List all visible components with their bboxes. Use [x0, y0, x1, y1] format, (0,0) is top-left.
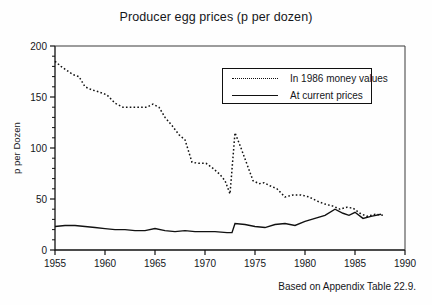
chart-figure: Producer egg prices (p per dozen) 050100…	[0, 0, 432, 305]
source-note: Based on Appendix Table 22.9.	[278, 281, 416, 292]
x-tick-label: 1985	[344, 258, 367, 269]
x-tick-label: 1980	[294, 258, 317, 269]
x-tick-label: 1970	[194, 258, 217, 269]
y-tick-label: 0	[41, 245, 47, 256]
y-tick-label: 150	[30, 92, 47, 103]
plot-canvas: 0501001502001955196019651970197519801985…	[0, 0, 432, 305]
x-tick-label: 1955	[44, 258, 67, 269]
chart-legend: In 1986 money values At current prices	[222, 68, 372, 104]
legend-entry-in-1986-money-values: In 1986 money values	[223, 69, 371, 87]
y-axis-title: p per Dozen	[11, 122, 22, 174]
x-tick-label: 1975	[244, 258, 267, 269]
y-tick-label: 200	[30, 41, 47, 52]
legend-swatch-dotted	[232, 73, 278, 83]
x-tick-label: 1990	[394, 258, 417, 269]
x-tick-label: 1960	[94, 258, 117, 269]
legend-entry-at-current-prices: At current prices	[223, 86, 371, 104]
legend-label-1: At current prices	[290, 90, 363, 101]
legend-label-0: In 1986 money values	[290, 73, 388, 84]
y-tick-label: 100	[30, 143, 47, 154]
series-line-at-current-prices	[55, 209, 381, 232]
legend-swatch-solid	[232, 90, 278, 100]
y-tick-label: 50	[36, 194, 48, 205]
x-tick-label: 1965	[144, 258, 167, 269]
